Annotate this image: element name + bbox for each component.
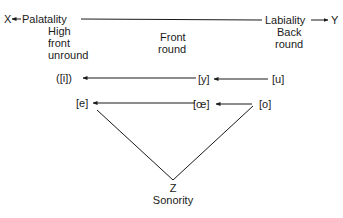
- vowel-o: [o]: [259, 98, 271, 110]
- right-column-line-2: round: [275, 38, 303, 50]
- sonority-label: Sonority: [153, 194, 193, 206]
- labiality-label: Labiality: [265, 14, 305, 26]
- vowel-e: [e]: [76, 97, 88, 109]
- left-column-line-3: unround: [48, 49, 88, 61]
- left-column-line-2: front: [48, 37, 70, 49]
- right-column-line-1: Back: [277, 26, 301, 38]
- x-label: X: [4, 13, 11, 25]
- z-label: Z: [170, 182, 177, 194]
- vowel-i: ([i]): [56, 72, 72, 84]
- axis-line: [81, 19, 262, 20]
- middle-column-line-2: round: [158, 43, 186, 55]
- vowel-y: [y]: [198, 73, 210, 85]
- sonority-triangle: [97, 106, 253, 180]
- left-column-line-1: High: [48, 25, 71, 37]
- vowel-u: [u]: [272, 73, 284, 85]
- vowel-oe: [œ]: [193, 98, 210, 110]
- middle-column-line-1: Front: [160, 31, 186, 43]
- y-label: Y: [331, 14, 338, 26]
- palatality-label: Palatality: [22, 13, 67, 25]
